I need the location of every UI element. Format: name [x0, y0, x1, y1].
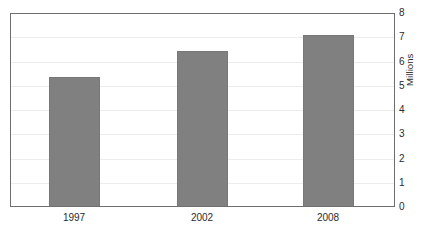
- y-axis-tick-label: 7: [399, 32, 415, 42]
- bar: [177, 51, 228, 206]
- bar: [303, 35, 354, 206]
- y-axis-tick-label: 3: [399, 129, 415, 139]
- y-axis-title: Millions: [404, 54, 415, 86]
- x-axis-tick-label: 2002: [172, 212, 232, 224]
- y-axis-tick-label: 4: [399, 105, 415, 115]
- bar: [49, 77, 100, 206]
- x-axis-tick-label: 1997: [44, 212, 104, 224]
- y-axis-tick-label: 0: [399, 202, 415, 212]
- y-axis-tick-label: 1: [399, 178, 415, 188]
- x-axis-tick-label: 2008: [298, 212, 358, 224]
- plot-area: [10, 13, 395, 207]
- y-axis-tick-label: 8: [399, 8, 415, 18]
- bar-chart: 012345678 Millions 199720022008: [0, 0, 428, 233]
- y-axis-tick-label: 2: [399, 154, 415, 164]
